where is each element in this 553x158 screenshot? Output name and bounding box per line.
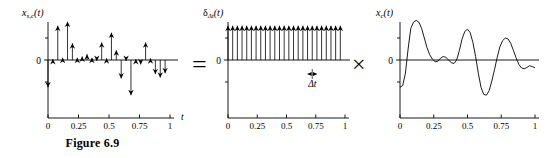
x-tick-label: 0.75: [493, 121, 509, 131]
x-axis-label: t: [181, 112, 184, 122]
continuous-signal-plot: 00.250.50.7510xc(t): [350, 0, 553, 140]
x-tick-label: 0.5: [281, 121, 293, 131]
impulse-train-plot: 00.250.50.7510tΔtδΔt(t): [185, 0, 350, 140]
x-tick-label: 0.5: [103, 121, 115, 131]
x-tick-label: 0.25: [426, 121, 442, 131]
x-tick-label: 0.25: [249, 121, 265, 131]
spacing-arrow-right: [313, 72, 317, 76]
y-zero-label: 0: [36, 56, 41, 66]
continuous-signal-curve: [400, 20, 535, 95]
x-tick-label: 0: [226, 121, 231, 131]
impulse-train-label-text: δΔt(t): [203, 7, 224, 20]
x-tick-label: 0: [398, 121, 403, 131]
x-tick-label: 0.75: [132, 121, 148, 131]
spacing-annotation: [308, 69, 317, 79]
x-tick-label: 0.5: [462, 121, 474, 131]
sampled-impulses: [45, 22, 168, 95]
sampled-signal-label: xs,c(t): [21, 7, 44, 20]
panel-continuous-signal: 00.250.50.7510xc(t): [350, 0, 553, 158]
x-tick-label: 1: [168, 121, 173, 131]
impulse-arrowhead: [79, 56, 84, 61]
continuous-signal-label-text: xc(t): [375, 7, 394, 20]
x-tick-label: 1: [343, 121, 348, 131]
impulse-arrowhead: [89, 58, 94, 63]
panel-sampled-signal: 00.250.50.7510txs,c(t): [0, 0, 185, 158]
impulse-arrowhead: [148, 58, 153, 63]
impulse-arrowhead: [60, 58, 65, 63]
x-tick-label: 1: [533, 121, 538, 131]
spacing-label: Δt: [307, 79, 317, 89]
y-zero-label: 0: [216, 56, 221, 66]
impulse-train-impulses: [225, 26, 343, 60]
y-zero-label: 0: [388, 56, 393, 66]
x-tick-label: 0.25: [71, 121, 87, 131]
spacing-arrow-left: [308, 72, 312, 76]
sampled-signal-plot: 00.250.50.7510txs,c(t): [0, 0, 185, 140]
sampled-signal-label-text: xs,c(t): [21, 7, 44, 20]
x-tick-label: 0.75: [308, 121, 324, 131]
x-tick-label: 0: [46, 121, 51, 131]
figure-caption: Figure 6.9: [0, 136, 185, 151]
panel-impulse-train: 00.250.50.7510tΔtδΔt(t): [185, 0, 350, 158]
impulse-arrowhead: [75, 58, 80, 63]
impulse-arrowhead: [104, 58, 109, 63]
